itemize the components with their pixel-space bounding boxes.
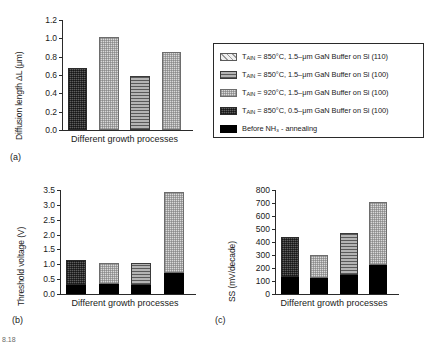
panel-c-tick [272,294,275,295]
panel-a-x-axis-label: Different growth processes [62,134,187,144]
footer-partial-text: 8.18 [2,336,16,343]
panel-b-label: (b) [12,315,23,325]
panel-c-tick-label: 300 [237,250,270,260]
panel-c-tick-label: 0 [237,289,270,299]
bar-segment-before-annealing [281,277,299,294]
legend-label: TAlN = 920°C, 1.5–μm GaN Buffer on Si (1… [242,88,388,97]
bar-segment-before-annealing [131,285,151,294]
legend-subscript: AlN [246,55,255,61]
panel-b-tick-label: 1.0 [22,259,55,269]
panel-b-tick-label: 2.0 [22,230,55,240]
panel-a-tick-label: 0.8 [24,52,57,62]
panel-c-tick [272,255,275,256]
legend-swatch-diagonal-hatch [220,53,237,61]
panel-b-tick-label: 3.0 [22,200,55,210]
panel-c-tick-label: 500 [237,224,270,234]
panel-b-tick-label: 1.5 [22,244,55,254]
legend-label: Before NH₃ - annealing [242,124,317,133]
bar [281,237,299,294]
legend-item: TAlN = 850°C, 1.5–μm GaN Buffer on Si (1… [220,69,388,80]
panel-c-tick-label: 600 [237,211,270,221]
panel-b-tick-label: 0.5 [22,274,55,284]
panel-b-tick-label: 0.0 [22,289,55,299]
bar-segment-after-annealing [99,263,119,285]
bar [68,68,87,130]
panel-c-tick [272,268,275,269]
bar-segment-after-annealing [164,192,184,273]
bar [99,263,119,294]
panel-a-tick-label: 1.2 [24,15,57,25]
panel-a-tick [59,130,62,131]
panel-a-tick [59,75,62,76]
panel-b-y-axis [60,190,61,294]
panel-b-tick [57,220,60,221]
panel-b-x-axis-label: Different growth processes [60,298,190,308]
panel-a-tick-label: 0.2 [24,107,57,117]
bar [130,76,149,130]
panel-c-tick [272,229,275,230]
bar-segment-before-annealing [66,285,86,294]
panel-a-y-axis-label: Diffusion length ΔL (μm) [14,52,24,141]
panel-c-y-axis-label: SS (mV/decade) [227,241,237,302]
panel-b-x-axis [60,294,196,295]
panel-a-tick [59,38,62,39]
bar-segment-before-annealing [99,284,119,294]
panel-c-tick-label: 200 [237,263,270,273]
bar [66,260,86,294]
legend-item: TAlN = 920°C, 1.5–μm GaN Buffer on Si (1… [220,87,388,98]
panel-a-tick-label: 0.0 [24,125,57,135]
panel-a-y-axis [62,20,63,130]
bar-segment-after-annealing [281,237,299,277]
legend-swatch-horizontal-lines [220,71,237,79]
legend-label: TAlN = 850°C, 0.5–μm GaN Buffer on Si (1… [242,106,388,115]
legend-item: TAlN = 850°C, 0.5–μm GaN Buffer on Si (1… [220,105,388,116]
panel-c-tick-label: 400 [237,237,270,247]
bar-segment-after-annealing [340,233,358,275]
panel-a-label: (a) [10,152,21,162]
bar-segment-before-annealing [310,278,328,294]
panel-c-tick [272,203,275,204]
panel-c-tick [272,281,275,282]
chart-panel-c: SS (mV/decade) Different growth processe… [213,178,427,340]
panel-c-x-axis-label: Different growth processes [271,298,397,308]
panel-b-tick [57,190,60,191]
bar [310,255,328,294]
legend-subscript: AlN [246,91,255,97]
bar [340,233,358,294]
bar [164,192,184,294]
bar-segment-before-annealing [369,265,387,294]
panel-c-tick-label: 700 [237,198,270,208]
panel-c-x-axis [275,294,399,295]
legend-swatch-solid-black [220,125,237,133]
panel-c-y-axis [275,190,276,294]
panel-c-tick [272,242,275,243]
legend-box: TAlN = 850°C, 1.5–μm GaN Buffer on Si (1… [213,43,424,138]
legend-swatch-checker [220,89,237,97]
bar [131,263,151,294]
bar [369,202,387,294]
bar-segment-after-annealing [131,263,151,285]
bar [162,52,181,130]
panel-c-label: (c) [215,315,226,325]
chart-panel-b: Threshold voltage (V) Different growth p… [0,178,210,340]
panel-c-tick [272,216,275,217]
legend-item: Before NH₃ - annealing [220,123,317,134]
panel-a-tick-label: 0.4 [24,88,57,98]
panel-b-tick-label: 2.5 [22,215,55,225]
bar-segment-after-annealing [369,202,387,266]
legend-swatch-dense-grid [220,107,237,115]
panel-b-tick [57,205,60,206]
legend-subscript: AlN [246,109,255,115]
panel-a-x-axis [62,130,193,131]
panel-a-tick [59,57,62,58]
panel-a-tick-label: 1.0 [24,33,57,43]
panel-a-tick [59,20,62,21]
bar-segment-after-annealing [310,255,328,278]
panel-a-tick [59,93,62,94]
panel-b-tick [57,294,60,295]
panel-b-tick-label: 3.5 [22,185,55,195]
bar-segment-before-annealing [164,273,184,294]
panel-c-tick-label: 100 [237,276,270,286]
panel-a-tick [59,112,62,113]
